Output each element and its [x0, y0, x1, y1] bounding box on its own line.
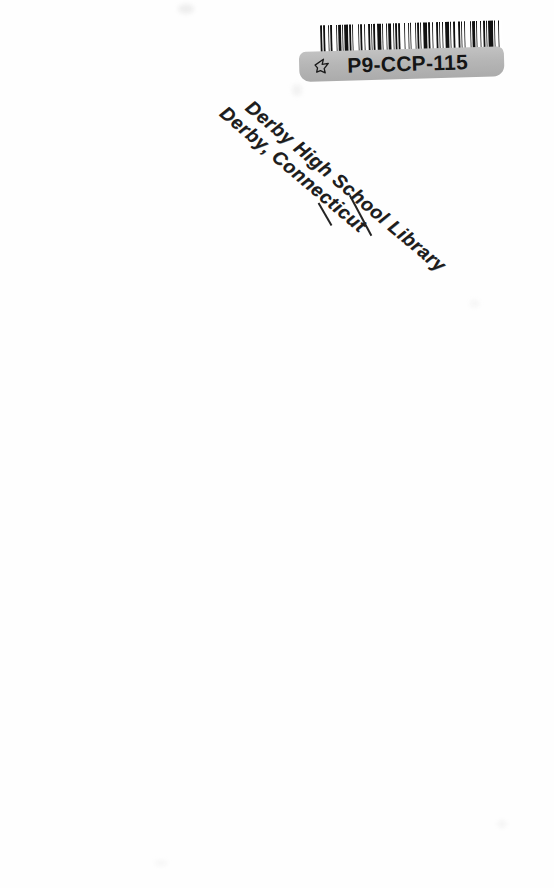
paper-smudge — [498, 820, 506, 828]
stamp-line-school: Derby High School Library — [242, 96, 451, 276]
barcode-label-plate: P9-CCP-115 — [299, 46, 505, 82]
stamp-line-city: Derby, Connecticut — [216, 102, 437, 292]
barcode-label-code: P9-CCP-115 — [347, 50, 469, 77]
paper-smudge — [178, 4, 194, 14]
scanned-page: P9-CCP-115 Derby High School Library Der… — [0, 0, 554, 888]
hand-pointer-icon — [313, 57, 332, 76]
barcode-label: P9-CCP-115 — [298, 18, 508, 86]
paper-smudge — [155, 860, 167, 866]
library-ownership-stamp: Derby High School Library Derby, Connect… — [216, 86, 451, 293]
paper-smudge — [470, 300, 479, 307]
